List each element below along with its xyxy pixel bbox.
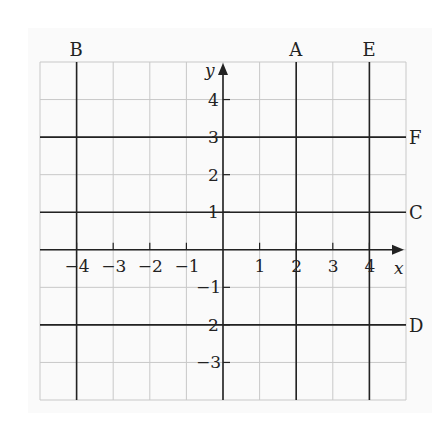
x-axis-label: x	[394, 258, 404, 278]
x-tick-label: −2	[138, 256, 163, 276]
y-axis-arrow-icon	[218, 63, 228, 75]
x-tick-label: 2	[291, 256, 302, 276]
labeled-lines: ABEFCD	[40, 39, 423, 400]
line-label-d: D	[409, 315, 423, 336]
x-axis-arrow-icon	[392, 245, 404, 255]
x-tick-label: −1	[174, 256, 199, 276]
x-tick-label: 4	[364, 256, 375, 276]
tick-labels: −4−3−2−112344321−12−3	[65, 90, 376, 373]
line-label-f: F	[409, 127, 422, 148]
y-tick-label: 1	[208, 202, 219, 222]
y-tick-label: 4	[208, 90, 219, 110]
y-tick-label: 2	[208, 315, 219, 335]
x-tick-label: 1	[255, 256, 266, 276]
line-label-a: A	[288, 39, 303, 60]
coordinate-plane: xy ABEFCD −4−3−2−112344321−12−3	[0, 0, 442, 421]
y-tick-label: −3	[196, 352, 221, 372]
x-tick-label: −3	[101, 256, 126, 276]
x-tick-label: −4	[65, 256, 90, 276]
line-label-c: C	[409, 202, 423, 223]
y-tick-label: 3	[208, 127, 219, 147]
y-axis-label: y	[204, 60, 215, 80]
x-tick-label: 3	[328, 256, 339, 276]
line-label-e: E	[362, 39, 375, 60]
line-label-b: B	[70, 39, 83, 60]
y-tick-label: −1	[196, 277, 221, 297]
y-tick-label: 2	[208, 165, 219, 185]
axes: xy	[40, 60, 404, 400]
